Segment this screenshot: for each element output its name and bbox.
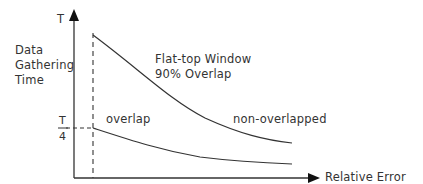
y-axis-title-line-1: Data <box>15 45 43 57</box>
x-axis-title: Relative Error <box>325 172 406 184</box>
overlap-label: overlap <box>106 114 151 126</box>
overlap-curve <box>93 128 292 164</box>
window-label-line-1: Flat-top Window <box>155 54 251 66</box>
x-axis-arrow-icon <box>308 173 320 183</box>
y-axis-top-label: T <box>57 14 64 26</box>
y-axis-title-line-3: Time <box>15 75 44 87</box>
diagram-canvas <box>0 0 423 184</box>
quarter-t-numerator: T <box>59 115 66 126</box>
y-axis-arrow-icon <box>69 9 79 21</box>
y-axis-title-line-2: Gathering <box>15 60 74 72</box>
quarter-t-denominator: 4 <box>59 131 66 142</box>
non-overlapped-label: non-overlapped <box>233 114 327 126</box>
window-label-line-2: 90% Overlap <box>155 69 232 81</box>
